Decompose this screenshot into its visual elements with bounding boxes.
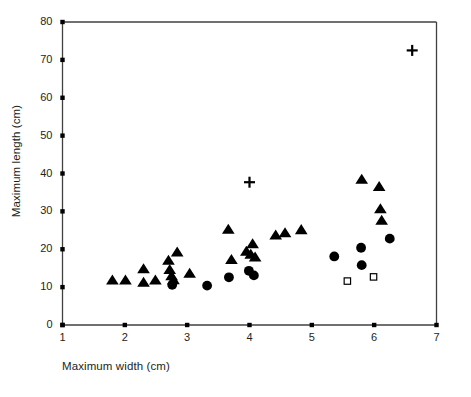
- x-tick-label: 5: [302, 331, 322, 343]
- data-point-circle: [224, 272, 234, 282]
- y-tick-label: 40: [31, 167, 53, 179]
- x-tick-mark: [310, 323, 314, 327]
- x-tick-mark: [185, 323, 189, 327]
- data-point-triangle: [279, 227, 292, 237]
- data-point-triangle: [225, 254, 238, 264]
- data-point-circle: [356, 243, 366, 253]
- series-open-square: [344, 274, 377, 285]
- data-point-plus: [407, 45, 418, 56]
- x-tick-mark: [123, 323, 127, 327]
- y-tick-mark: [60, 96, 64, 100]
- y-tick-label: 50: [31, 129, 53, 141]
- data-point-triangle: [246, 238, 259, 248]
- data-point-square: [344, 278, 350, 284]
- data-point-triangle: [373, 181, 386, 191]
- data-point-square: [370, 274, 376, 280]
- data-point-triangle: [106, 274, 119, 284]
- x-tick-label: 6: [364, 331, 384, 343]
- x-tick-label: 3: [177, 331, 197, 343]
- y-tick-label: 60: [31, 91, 53, 103]
- y-tick-label: 70: [31, 53, 53, 65]
- series-filled-circle: [167, 234, 394, 291]
- data-point-triangle: [295, 224, 308, 234]
- x-tick-label: 1: [53, 331, 73, 343]
- y-tick-label: 80: [31, 15, 53, 27]
- data-point-circle: [202, 281, 212, 291]
- y-tick-mark: [60, 247, 64, 251]
- data-point-triangle: [183, 268, 196, 278]
- axis-lines: [63, 22, 437, 325]
- y-tick-mark: [60, 133, 64, 137]
- data-point-triangle: [374, 203, 387, 213]
- data-point-triangle: [355, 174, 368, 184]
- x-tick-label: 2: [115, 331, 135, 343]
- axis-tick-marks: [60, 20, 438, 327]
- data-point-circle: [249, 270, 259, 280]
- data-point-circle: [329, 252, 339, 262]
- y-tick-mark: [60, 285, 64, 289]
- y-tick-label: 0: [31, 318, 53, 330]
- data-point-triangle: [119, 274, 132, 284]
- x-tick-label: 7: [427, 331, 447, 343]
- x-tick-mark: [372, 323, 376, 327]
- data-point-triangle: [269, 229, 282, 239]
- data-point-plus: [244, 177, 255, 188]
- data-point-circle: [167, 280, 177, 290]
- y-tick-label: 10: [31, 280, 53, 292]
- y-tick-mark: [60, 58, 64, 62]
- x-tick-mark: [60, 323, 64, 327]
- data-point-circle: [385, 234, 395, 244]
- y-tick-mark: [60, 20, 64, 24]
- y-tick-mark: [60, 209, 64, 213]
- data-marker-layer: [106, 45, 418, 291]
- y-tick-mark: [60, 171, 64, 175]
- data-point-triangle: [222, 224, 235, 234]
- data-point-triangle: [171, 246, 184, 256]
- data-point-triangle: [137, 263, 150, 273]
- scatter-plot-figure: Maximum length (cm) Maximum width (cm) 0…: [0, 0, 471, 397]
- data-point-triangle: [149, 274, 162, 284]
- x-tick-label: 4: [240, 331, 260, 343]
- x-tick-mark: [434, 323, 438, 327]
- data-point-circle: [357, 260, 367, 270]
- x-tick-mark: [247, 323, 251, 327]
- y-tick-label: 20: [31, 242, 53, 254]
- series-plus: [244, 45, 418, 188]
- data-point-triangle: [375, 215, 388, 225]
- data-point-triangle: [163, 264, 176, 274]
- y-tick-label: 30: [31, 204, 53, 216]
- data-point-triangle: [137, 277, 150, 287]
